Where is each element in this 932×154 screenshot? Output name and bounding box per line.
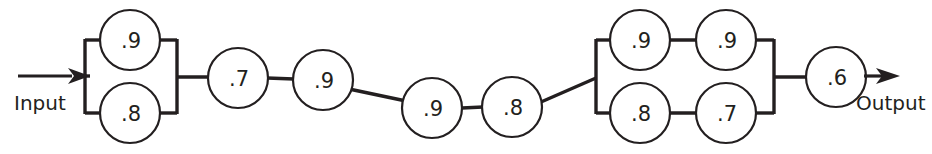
node-series-3-label: .9 [423,97,443,121]
node-right-bottom-1-label: .8 [631,102,651,126]
output-arrow [864,68,900,84]
node-left-top[interactable]: .9 [100,10,160,70]
node-series-1-label: .7 [229,67,249,91]
input-arrow [18,68,90,84]
node-left-top-label: .9 [121,29,141,53]
node-right-bottom-2[interactable]: .7 [696,83,756,143]
node-right-bottom-1[interactable]: .8 [610,83,670,143]
node-right-top-2-label: .9 [717,29,737,53]
output-label: Output [856,91,926,115]
node-series-2-label: .9 [314,69,334,93]
node-output-label: .6 [827,66,847,90]
input-label: Input [14,91,66,115]
node-series-2[interactable]: .9 [293,50,353,110]
node-series-3[interactable]: .9 [402,78,462,138]
node-left-bottom-label: .8 [121,102,141,126]
node-series-1[interactable]: .7 [208,48,268,108]
node-right-top-1-label: .9 [631,29,651,53]
diagram-canvas: Input [0,0,932,154]
node-left-bottom[interactable]: .8 [100,83,160,143]
node-right-top-1[interactable]: .9 [610,10,670,70]
node-right-top-2[interactable]: .9 [696,10,756,70]
reliability-block-diagram: Input [0,0,932,154]
node-right-bottom-2-label: .7 [717,102,737,126]
node-series-4-label: .8 [503,96,523,120]
node-series-4[interactable]: .8 [482,77,542,137]
